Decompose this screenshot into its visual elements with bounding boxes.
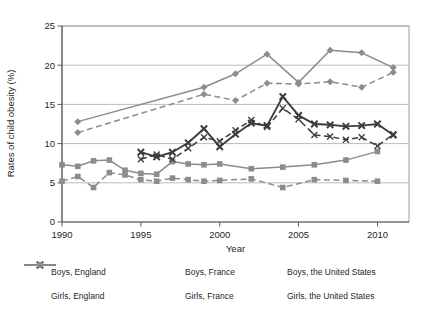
y-axis-title: Rates of child obesity (%) bbox=[5, 24, 18, 224]
legend-label: Girls, France bbox=[185, 291, 234, 301]
square-marker-icon bbox=[201, 178, 207, 184]
x-thin-marker-icon bbox=[296, 116, 302, 122]
legend-label: Boys, England bbox=[51, 267, 106, 277]
square-marker-icon bbox=[343, 178, 349, 184]
square-marker-icon bbox=[217, 161, 223, 167]
diamond-marker-icon bbox=[74, 118, 81, 125]
square-marker-icon bbox=[107, 157, 113, 163]
plot-frame bbox=[62, 26, 409, 222]
diamond-marker-icon bbox=[37, 262, 44, 269]
square-marker-icon bbox=[154, 171, 160, 177]
x-axis-title: Year bbox=[62, 243, 409, 254]
legend-marker-girls-the-united-states bbox=[24, 260, 56, 270]
square-marker-icon bbox=[122, 172, 128, 178]
legend-item-girls-england: Girls, England bbox=[24, 291, 160, 301]
plot-area: 051015202519901995200020052010 bbox=[0, 0, 448, 256]
square-marker-icon bbox=[75, 174, 81, 180]
square-marker-icon bbox=[312, 162, 318, 168]
legend-item-girls-the-united-states: Girls, the United States bbox=[262, 291, 442, 301]
legend-item-girls-france: Girls, France bbox=[160, 291, 262, 301]
square-marker-icon bbox=[375, 149, 381, 155]
square-marker-icon bbox=[343, 157, 349, 163]
square-marker-icon bbox=[75, 164, 81, 170]
y-tick-label-15: 15 bbox=[44, 99, 55, 110]
diamond-marker-icon bbox=[232, 70, 239, 77]
diamond-marker-icon bbox=[264, 80, 271, 87]
chart-legend: Boys, EnglandBoys, FranceBoys, the Unite… bbox=[24, 260, 444, 308]
square-marker-icon bbox=[91, 185, 97, 191]
x-bold-marker-icon bbox=[217, 144, 223, 150]
square-marker-icon bbox=[138, 171, 144, 177]
x-bold-marker-icon bbox=[185, 140, 191, 146]
x-thin-marker-icon bbox=[185, 145, 191, 151]
x-tick-label-2000: 2000 bbox=[209, 229, 230, 240]
legend-item-boys-france: Boys, France bbox=[160, 267, 262, 277]
x-tick-label-2010: 2010 bbox=[367, 229, 388, 240]
y-tick-label-5: 5 bbox=[50, 177, 55, 188]
y-tick-label-20: 20 bbox=[44, 60, 55, 71]
x-bold-marker-icon bbox=[201, 126, 207, 132]
square-marker-icon bbox=[185, 161, 191, 167]
square-marker-icon bbox=[375, 178, 381, 184]
square-marker-icon bbox=[312, 177, 318, 183]
x-thin-marker-icon bbox=[359, 134, 365, 140]
x-bold-marker-icon bbox=[280, 93, 286, 99]
square-marker-icon bbox=[201, 162, 207, 168]
y-tick-label-10: 10 bbox=[44, 138, 55, 149]
legend-label: Girls, England bbox=[51, 291, 104, 301]
diamond-marker-icon bbox=[200, 84, 207, 91]
square-marker-icon bbox=[154, 178, 160, 184]
series-boys-the-united-states bbox=[74, 47, 396, 125]
square-marker-icon bbox=[138, 177, 144, 183]
square-marker-icon bbox=[185, 177, 191, 183]
y-tick-label-0: 0 bbox=[50, 216, 55, 227]
diamond-marker-icon bbox=[358, 84, 365, 91]
square-marker-icon bbox=[59, 178, 65, 184]
line-girls-england bbox=[141, 108, 393, 159]
x-thin-marker-icon bbox=[233, 127, 239, 133]
diamond-marker-icon bbox=[74, 129, 81, 136]
square-marker-icon bbox=[280, 185, 286, 191]
series-girls-france bbox=[59, 170, 380, 190]
x-thin-marker-icon bbox=[280, 105, 286, 111]
x-tick-label-1990: 1990 bbox=[51, 229, 72, 240]
line-boys-the-united-states bbox=[78, 50, 393, 121]
diamond-marker-icon bbox=[390, 69, 397, 76]
legend-label: Boys, the United States bbox=[287, 267, 376, 277]
legend-label: Girls, the United States bbox=[287, 291, 374, 301]
square-marker-icon bbox=[217, 178, 223, 184]
legend-item-boys-the-united-states: Boys, the United States bbox=[262, 267, 442, 277]
x-thin-marker-icon bbox=[201, 134, 207, 140]
square-marker-icon bbox=[280, 164, 286, 170]
square-marker-icon bbox=[248, 166, 254, 172]
x-tick-label-2005: 2005 bbox=[288, 229, 309, 240]
diamond-marker-icon bbox=[327, 78, 334, 85]
y-tick-label-25: 25 bbox=[44, 20, 55, 31]
square-marker-icon bbox=[91, 158, 97, 164]
diamond-marker-icon bbox=[232, 97, 239, 104]
square-marker-icon bbox=[107, 170, 113, 176]
x-tick-label-1995: 1995 bbox=[130, 229, 151, 240]
diamond-marker-icon bbox=[200, 91, 207, 98]
square-marker-icon bbox=[170, 175, 176, 181]
diamond-marker-icon bbox=[358, 49, 365, 56]
square-marker-icon bbox=[59, 162, 65, 168]
square-marker-icon bbox=[248, 176, 254, 182]
legend-label: Boys, France bbox=[185, 267, 235, 277]
series-girls-england bbox=[138, 105, 396, 162]
child-obesity-line-chart: 051015202519901995200020052010 Rates of … bbox=[0, 0, 448, 313]
